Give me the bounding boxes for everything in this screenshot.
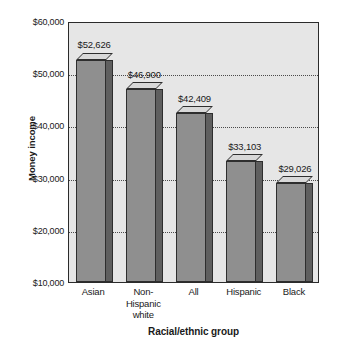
bar [126,82,163,282]
bar-side-face [256,161,263,282]
bar-value-label: $52,626 [61,39,127,50]
bar-value-label: $33,103 [212,141,278,152]
bar-top-face [226,154,263,161]
x-axis-title: Racial/ethnic group [68,326,319,337]
bar-front-face [126,89,156,282]
bar-front-face [176,113,206,282]
y-axis-tick-label: $10,000 [33,278,64,288]
bar [276,176,313,282]
bar-side-face [106,60,113,283]
bar-front-face [226,161,256,282]
bar [176,106,213,282]
y-axis-tick-label: $40,000 [33,121,64,131]
y-axis-tick-labels: $60,000$50,000$40,000$30,000$20,000$10,0… [8,22,66,283]
x-axis-tick-label: Black [262,286,326,298]
x-axis-tick-label-line: Black [262,286,326,298]
bar-value-label: $46,900 [111,69,177,80]
plot-area [68,22,319,283]
bar-front-face [76,60,106,283]
bar-value-label: $42,409 [162,93,228,104]
bar-side-face [206,113,213,282]
bar-side-face [306,183,313,282]
bar-side-face [156,89,163,282]
bars [69,23,318,282]
x-axis-tick-label-line: white [111,309,175,321]
bar-top-face [76,53,113,60]
y-axis-tick-label: $30,000 [33,174,64,184]
bar [76,53,113,283]
bar-top-face [276,176,313,183]
y-axis-tick-label: $20,000 [33,226,64,236]
bar-chart: Money income $60,000$50,000$40,000$30,00… [0,0,337,345]
bar-top-face [176,106,213,113]
y-axis-tick-label: $50,000 [33,69,64,79]
bar-front-face [276,183,306,282]
bar-top-face [126,82,163,89]
x-axis-tick-label-line: Hispanic [111,298,175,310]
y-axis-tick-label: $60,000 [33,17,64,27]
bar [226,154,263,282]
bar-value-label: $29,026 [262,163,328,174]
x-axis-tick-labels: AsianNon-HispanicwhiteAllHispanicBlack [68,286,319,331]
